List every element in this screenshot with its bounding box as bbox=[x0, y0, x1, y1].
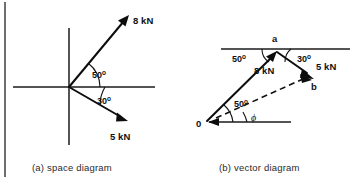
vector-diagram-caption: (b) vector diagram bbox=[219, 162, 300, 173]
vector-angle-arc-phi-at-origin bbox=[243, 112, 247, 122]
vector-diagram-panel: 8 kN 5 kN a b 0 50o 30o bbox=[196, 33, 350, 173]
vector-angle-50o-unit: o bbox=[244, 98, 248, 105]
vector-angle-50a-unit: o bbox=[242, 53, 246, 60]
vector-force-label-8kn: 8 kN bbox=[254, 65, 275, 76]
vector-point-label-a: a bbox=[272, 33, 278, 44]
space-force-label-8kn: 8 kN bbox=[133, 15, 154, 26]
vector-angle-50o-value: 50 bbox=[234, 99, 244, 109]
vector-angle-30a-unit: o bbox=[307, 53, 311, 60]
space-diagram-panel: 8 kN 5 kN 50o 30o (a) space diagram bbox=[13, 15, 155, 173]
vector-angle-label-30-at-a: 30o bbox=[297, 53, 311, 65]
space-angle-50-unit: o bbox=[102, 69, 106, 76]
vector-force-label-5kn: 5 kN bbox=[316, 61, 337, 72]
space-angle-label-50: 50o bbox=[92, 69, 106, 81]
physics-figure: 8 kN 5 kN 50o 30o (a) space diagram bbox=[0, 0, 360, 179]
vector-angle-label-50-at-a: 50o bbox=[232, 53, 246, 65]
space-diagram-caption: (a) space diagram bbox=[32, 162, 112, 173]
vector-point-label-b: b bbox=[311, 81, 317, 92]
vector-angle-label-phi: ϕ bbox=[251, 112, 256, 123]
space-angle-30-value: 30 bbox=[97, 96, 107, 106]
vector-angle-label-50-at-origin: 50o bbox=[234, 98, 248, 110]
figure-container: 8 kN 5 kN 50o 30o (a) space diagram bbox=[0, 0, 360, 179]
space-force-vector-5kn bbox=[69, 87, 121, 117]
vector-angle-50a-value: 50 bbox=[232, 54, 242, 64]
space-angle-30-unit: o bbox=[107, 95, 111, 102]
space-angle-label-30: 30o bbox=[97, 95, 111, 107]
space-angle-50-value: 50 bbox=[92, 70, 102, 80]
vector-point-label-origin: 0 bbox=[196, 118, 201, 129]
vector-angle-30a-value: 30 bbox=[297, 54, 307, 64]
space-force-vector-5kn-arrowhead bbox=[116, 113, 128, 122]
space-force-label-5kn: 5 kN bbox=[110, 131, 131, 142]
